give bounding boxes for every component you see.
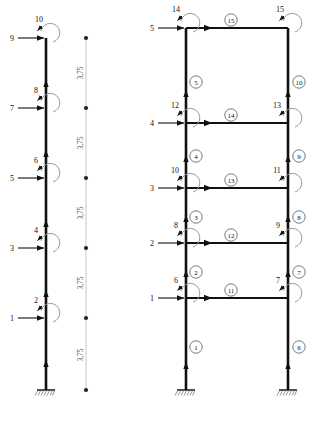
dof-label-10: 10 xyxy=(35,15,43,24)
element-label-5: 5 xyxy=(190,76,202,88)
svg-text:2: 2 xyxy=(194,269,198,277)
svg-text:1: 1 xyxy=(194,344,198,352)
svg-text:6: 6 xyxy=(297,344,301,352)
svg-text:15: 15 xyxy=(228,17,236,25)
dof-label-3: 3 xyxy=(150,184,154,193)
dof-label-4: 4 xyxy=(150,119,154,128)
svg-text:8: 8 xyxy=(297,214,301,222)
dof-label-5: 5 xyxy=(10,174,14,183)
element-label-3: 3 xyxy=(190,211,202,223)
element-label-1: 1 xyxy=(190,341,202,353)
element-label-15: 15 xyxy=(225,14,237,26)
structural-frame-diagram: 1 2 3 4 5 6 7 8 xyxy=(0,0,320,428)
dof-label-12: 12 xyxy=(171,101,179,110)
element-label-14: 14 xyxy=(225,109,237,121)
dimension-label-4: 3,75 xyxy=(76,276,85,289)
element-label-7: 7 xyxy=(293,266,305,278)
element-label-13: 13 xyxy=(225,174,237,186)
svg-text:11: 11 xyxy=(228,287,235,295)
dof-label-7: 7 xyxy=(10,104,14,113)
dof-label-8: 8 xyxy=(34,86,38,95)
dof-label-2: 2 xyxy=(34,296,38,305)
element-label-6: 6 xyxy=(293,341,305,353)
dof-label-1: 1 xyxy=(150,294,154,303)
svg-text:4: 4 xyxy=(194,153,198,161)
element-label-2: 2 xyxy=(190,266,202,278)
dof-label-6: 6 xyxy=(34,156,38,165)
dof-label-1: 1 xyxy=(10,314,14,323)
dof-label-15: 15 xyxy=(276,5,284,14)
dimension-tick xyxy=(84,316,88,320)
element-label-12: 12 xyxy=(225,229,237,241)
diagram-canvas: 1 2 3 4 5 6 7 8 xyxy=(0,0,320,428)
svg-text:10: 10 xyxy=(296,79,304,87)
dof-label-3: 3 xyxy=(10,244,14,253)
dof-label-9: 9 xyxy=(276,221,280,230)
dimension-tick xyxy=(84,176,88,180)
dimension-label-3: 3,75 xyxy=(76,206,85,219)
dof-label-10: 10 xyxy=(171,166,179,175)
dof-label-13: 13 xyxy=(273,101,281,110)
svg-text:14: 14 xyxy=(228,112,236,120)
element-label-9: 9 xyxy=(293,150,305,162)
dof-label-11: 11 xyxy=(273,166,281,175)
dimension-tick xyxy=(84,246,88,250)
element-label-8: 8 xyxy=(293,211,305,223)
dof-label-2: 2 xyxy=(150,239,154,248)
svg-text:7: 7 xyxy=(297,269,301,277)
dof-label-14: 14 xyxy=(172,5,180,14)
dimension-label-5: 3,75 xyxy=(76,348,85,361)
dof-label-7: 7 xyxy=(276,276,280,285)
dof-label-4: 4 xyxy=(34,226,38,235)
dimension-tick xyxy=(84,106,88,110)
svg-text:9: 9 xyxy=(297,153,301,161)
canvas-background xyxy=(0,0,320,428)
dof-label-5: 5 xyxy=(150,24,154,33)
element-label-10: 10 xyxy=(293,76,305,88)
svg-text:5: 5 xyxy=(194,79,198,87)
dof-label-8: 8 xyxy=(174,221,178,230)
dimension-tick xyxy=(84,388,88,392)
svg-text:13: 13 xyxy=(228,177,236,185)
svg-text:3: 3 xyxy=(194,214,198,222)
svg-text:12: 12 xyxy=(228,232,236,240)
element-label-4: 4 xyxy=(190,150,202,162)
dof-label-9: 9 xyxy=(10,34,14,43)
dimension-tick xyxy=(84,36,88,40)
dof-label-6: 6 xyxy=(174,276,178,285)
element-label-11: 11 xyxy=(225,284,237,296)
dimension-label-1: 3,75 xyxy=(76,66,85,79)
dimension-label-2: 3,75 xyxy=(76,136,85,149)
